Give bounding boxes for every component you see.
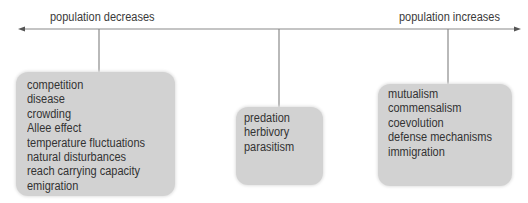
list-item: emigration <box>27 179 157 193</box>
list-item: temperature fluctuations <box>27 136 157 150</box>
list-item: Allee effect <box>27 121 157 135</box>
left-arrowhead-icon <box>18 27 25 32</box>
list-item: disease <box>27 92 157 106</box>
list-item: commensalism <box>388 101 497 115</box>
list-item: natural disturbances <box>27 150 157 164</box>
list-item: predation <box>244 111 314 125</box>
list-item: coevolution <box>388 116 497 130</box>
list-item: reach carrying capacity <box>27 164 157 178</box>
list-item: parasitism <box>244 140 314 154</box>
list-item: defense mechanisms <box>388 130 497 144</box>
increase-factors-box: mutualism commensalism coevolution defen… <box>378 84 512 186</box>
list-item: immigration <box>388 145 497 159</box>
list-item: mutualism <box>388 87 497 101</box>
list-item: herbivory <box>244 125 314 139</box>
list-item: crowding <box>27 107 157 121</box>
population-increases-label: population increases <box>399 10 500 24</box>
list-item: competition <box>27 78 157 92</box>
right-arrowhead-icon <box>514 27 521 32</box>
decrease-factors-box: competition disease crowding Allee effec… <box>16 72 175 196</box>
neutral-factors-box: predation herbivory parasitism <box>236 107 323 185</box>
population-decreases-label: population decreases <box>50 10 155 24</box>
